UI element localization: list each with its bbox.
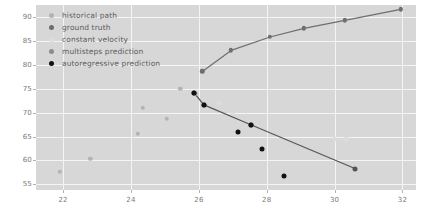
x-tick-label: 24	[126, 196, 135, 204]
legend-swatch	[49, 37, 54, 42]
chart-legend: historical pathground truthconstant velo…	[40, 10, 160, 68]
gridline-horizontal	[36, 89, 416, 90]
data-point	[229, 48, 233, 52]
data-point	[178, 87, 182, 91]
x-tick-mark	[63, 190, 64, 193]
gridline-vertical	[335, 5, 336, 190]
x-tick-label: 28	[262, 196, 271, 204]
legend-label: historical path	[62, 11, 117, 20]
legend-item[interactable]: constant velocity	[40, 34, 160, 44]
y-tick-mark	[33, 17, 36, 18]
legend-marker-icon	[40, 13, 62, 18]
gridline-vertical	[199, 5, 200, 190]
legend-marker-icon	[40, 37, 62, 42]
data-point	[217, 100, 221, 104]
y-tick-label: 75	[14, 85, 32, 93]
x-tick-mark	[267, 190, 268, 193]
y-tick-label: 90	[14, 13, 32, 21]
data-point	[235, 130, 240, 135]
gridline-vertical	[402, 5, 403, 190]
legend-item[interactable]: ground truth	[40, 22, 160, 32]
legend-swatch	[49, 13, 54, 18]
gridline-vertical	[267, 5, 268, 190]
x-tick-label: 26	[194, 196, 203, 204]
y-tick-mark	[33, 113, 36, 114]
y-tick-label: 60	[14, 156, 32, 164]
legend-swatch	[49, 25, 54, 30]
data-point	[57, 170, 61, 174]
x-tick-mark	[335, 190, 336, 193]
gridline-horizontal	[36, 184, 416, 185]
y-tick-mark	[33, 137, 36, 138]
x-tick-mark	[131, 190, 132, 193]
y-tick-label: 80	[14, 61, 32, 69]
data-point	[164, 117, 168, 121]
data-point	[200, 69, 204, 73]
legend-label: ground truth	[62, 23, 111, 32]
legend-marker-icon	[40, 49, 62, 54]
data-point	[281, 173, 286, 178]
x-tick-label: 32	[398, 196, 407, 204]
data-point	[201, 102, 206, 107]
data-point	[231, 112, 235, 116]
y-tick-mark	[33, 184, 36, 185]
legend-marker-icon	[40, 61, 62, 66]
y-tick-mark	[33, 89, 36, 90]
legend-label: constant velocity	[62, 35, 128, 44]
data-point	[249, 123, 254, 128]
y-tick-mark	[33, 65, 36, 66]
data-point	[332, 137, 336, 141]
data-point	[268, 35, 272, 39]
legend-marker-icon	[40, 25, 62, 30]
data-point	[344, 137, 348, 141]
x-tick-label: 22	[58, 196, 67, 204]
y-tick-label: 65	[14, 133, 32, 141]
legend-swatch	[49, 49, 54, 54]
chart-figure: 2224262830325560657075808590 historical …	[0, 0, 425, 223]
data-point	[259, 147, 264, 152]
x-tick-mark	[402, 190, 403, 193]
gridline-horizontal	[36, 160, 416, 161]
y-tick-mark	[33, 160, 36, 161]
legend-item[interactable]: autoregressive prediction	[40, 58, 160, 68]
x-tick-mark	[199, 190, 200, 193]
data-point	[141, 106, 145, 110]
x-tick-label: 30	[330, 196, 339, 204]
y-tick-label: 70	[14, 109, 32, 117]
data-point	[302, 26, 306, 30]
legend-label: multisteps prediction	[62, 47, 143, 56]
legend-swatch	[49, 61, 54, 66]
legend-item[interactable]: multisteps prediction	[40, 46, 160, 56]
data-point	[352, 166, 357, 171]
data-point	[191, 90, 196, 95]
gridline-horizontal	[36, 137, 416, 138]
legend-item[interactable]: historical path	[40, 10, 160, 20]
data-point	[136, 131, 140, 135]
y-tick-label: 85	[14, 37, 32, 45]
y-tick-mark	[33, 41, 36, 42]
legend-label: autoregressive prediction	[62, 59, 160, 68]
gridline-horizontal	[36, 113, 416, 114]
y-tick-label: 55	[14, 180, 32, 188]
data-point	[343, 18, 347, 22]
